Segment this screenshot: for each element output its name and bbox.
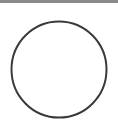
circle-shape [10,20,108,119]
circle-outline-icon [10,20,108,119]
top-border-bar [0,0,118,3]
